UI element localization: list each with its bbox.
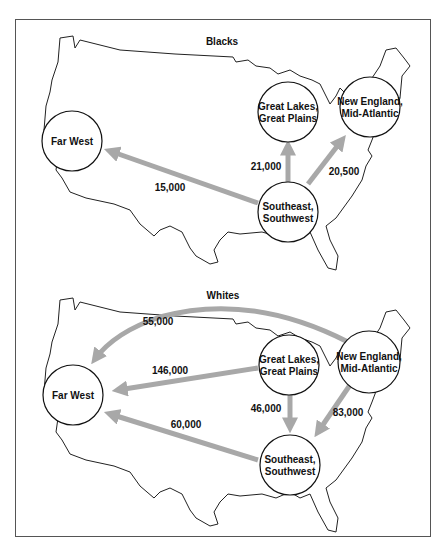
flow-label-se-gl: 21,000 [251, 161, 282, 172]
svg-text:Great Plains: Great Plains [259, 113, 318, 124]
node-southeast: Southeast, Southwest [258, 182, 318, 242]
panel-title: Whites [207, 290, 240, 301]
flow-label-se-fw: 15,000 [155, 182, 186, 193]
svg-text:Southeast,: Southeast, [264, 454, 315, 465]
node-far-west: Far West [43, 365, 103, 425]
panel-title: Blacks [206, 36, 239, 47]
node-great-lakes: Great Lakes, Great Plains [259, 335, 319, 395]
svg-text:Mid-Atlantic: Mid-Atlantic [340, 363, 398, 374]
migration-diagram: Blacks Far West Great Lakes, Great Plain… [0, 0, 446, 557]
svg-text:Mid-Atlantic: Mid-Atlantic [341, 108, 399, 119]
flow-label-gl-se: 46,000 [251, 403, 282, 414]
svg-text:Southwest: Southwest [265, 466, 316, 477]
node-southeast: Southeast, Southwest [260, 435, 320, 495]
svg-text:New England,: New England, [336, 351, 402, 362]
svg-text:Far West: Far West [51, 136, 94, 147]
svg-text:Great Lakes,: Great Lakes, [258, 101, 318, 112]
svg-text:Southwest: Southwest [263, 213, 314, 224]
svg-text:Far West: Far West [52, 390, 95, 401]
flow-label-se-fw: 60,000 [171, 419, 202, 430]
panel-blacks: Blacks Far West Great Lakes, Great Plain… [42, 36, 410, 270]
svg-text:New England,: New England, [337, 96, 403, 107]
panel-whites: Whites Far West Great Lakes, Great Plain… [43, 290, 410, 532]
node-great-lakes: Great Lakes, Great Plains [258, 82, 318, 142]
svg-text:Great Plains: Great Plains [260, 366, 319, 377]
flow-label-se-ne: 20,500 [329, 166, 360, 177]
flow-label-ne-se: 83,000 [333, 407, 364, 418]
svg-text:Southeast,: Southeast, [262, 201, 313, 212]
flow-label-ne-fw: 55,000 [143, 316, 174, 327]
svg-text:Great Lakes,: Great Lakes, [259, 354, 319, 365]
flow-label-gl-fw: 146,000 [152, 365, 189, 376]
node-far-west: Far West [42, 111, 102, 171]
